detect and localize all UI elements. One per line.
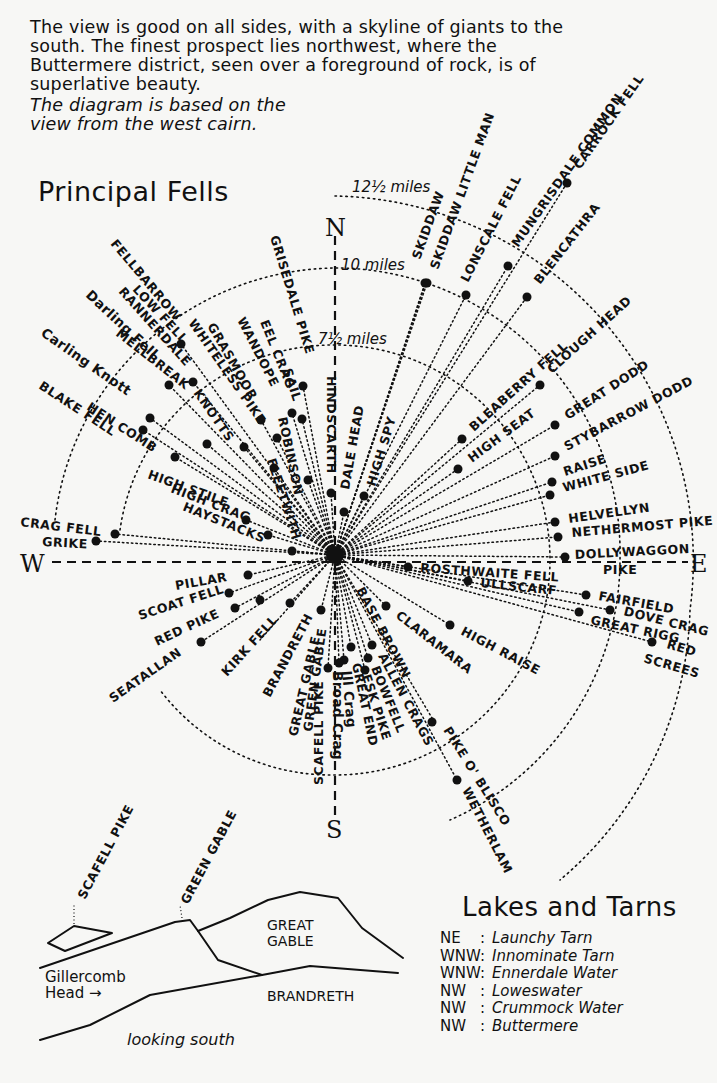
lake-direction: NW xyxy=(440,1000,480,1018)
lake-row: WNW : Innominate Tarn xyxy=(440,948,710,966)
lake-separator: : xyxy=(480,1018,492,1036)
sketch-label-scafell-pike: SCAFELL PIKE xyxy=(74,802,136,901)
label-hindscarth: HINDSCARTH xyxy=(324,376,339,474)
lake-row: NE : Launchy Tarn xyxy=(440,930,710,948)
lake-name: Launchy Tarn xyxy=(492,930,592,948)
sketch-label-brandreth: BRANDRETH xyxy=(267,988,354,1004)
label-seatallan: SEATALLAN xyxy=(106,644,184,705)
sketch-caption: looking south xyxy=(127,1030,235,1049)
lake-name: Loweswater xyxy=(492,983,582,1001)
lake-separator: : xyxy=(480,1000,492,1018)
label-clough-head: CLOUGH HEAD xyxy=(544,293,634,377)
lakes-title: Lakes and Tarns xyxy=(462,892,710,922)
compass-west: W xyxy=(20,550,45,578)
lake-name: Crummock Water xyxy=(492,1000,623,1018)
lake-row: WNW : Ennerdale Water xyxy=(440,965,710,983)
label-dollywaggon-2: PIKE xyxy=(603,562,637,577)
lake-name: Ennerdale Water xyxy=(492,965,617,983)
label-dollywaggon-1: DOLLYWAGGON xyxy=(574,541,690,562)
compass-north: N xyxy=(325,214,346,242)
label-grike: GRIKE xyxy=(42,534,88,551)
lake-row: NW : Crummock Water xyxy=(440,1000,710,1018)
ring-12-5-miles xyxy=(335,196,693,880)
lake-direction: WNW xyxy=(440,965,480,983)
ring-label-12-5: 12½ miles xyxy=(352,178,431,196)
lake-direction: NE xyxy=(440,930,480,948)
lake-separator: : xyxy=(480,948,492,966)
ring-label-7-5: 7½ miles xyxy=(318,330,387,348)
label-dale-head: DALE HEAD xyxy=(337,404,367,491)
lake-separator: : xyxy=(480,965,492,983)
lake-direction: NW xyxy=(440,983,480,1001)
sketch-label-gillercomb-2: Head → xyxy=(45,984,102,1002)
cairn-center-marker xyxy=(326,546,344,564)
lake-direction: NW xyxy=(440,1018,480,1036)
label-carrock-fell: CARROCK FELL xyxy=(570,71,647,171)
lake-row: NW : Buttermere xyxy=(440,1018,710,1036)
lakes-and-tarns-section: Lakes and Tarns NE : Launchy Tarn WNW : … xyxy=(440,892,710,1035)
sketch-looking-south xyxy=(40,892,403,1040)
label-knotts: KNOTTS xyxy=(191,386,238,444)
sketch-peak-markers xyxy=(74,905,182,924)
lake-separator: : xyxy=(480,983,492,1001)
lake-row: NW : Loweswater xyxy=(440,983,710,1001)
sketch-label-green-gable: GREEN GABLE xyxy=(177,807,239,906)
ring-label-10: 10 miles xyxy=(341,256,405,274)
label-broad-crag: Broad Crag xyxy=(330,671,346,760)
sketch-label-great-gable-1: GREAT xyxy=(267,917,314,933)
compass-south: S xyxy=(326,816,342,844)
lake-direction: WNW xyxy=(440,948,480,966)
label-red-screes-1: RED xyxy=(665,636,698,659)
sketch-label-great-gable-2: GABLE xyxy=(267,933,314,949)
lake-name: Buttermere xyxy=(492,1018,578,1036)
lake-separator: : xyxy=(480,930,492,948)
lake-name: Innominate Tarn xyxy=(492,948,614,966)
